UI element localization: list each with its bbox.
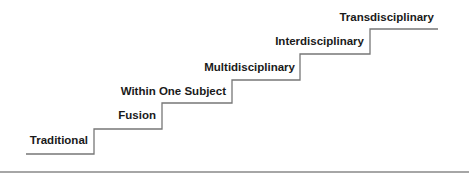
step-label-multidisciplinary: Multidisciplinary xyxy=(204,61,295,73)
step-label-within-one-subject: Within One Subject xyxy=(121,85,226,97)
step-label-fusion: Fusion xyxy=(118,109,156,121)
staircase-diagram: Traditional Fusion Within One Subject Mu… xyxy=(0,0,469,174)
step-label-traditional: Traditional xyxy=(30,134,88,146)
step-label-transdisciplinary: Transdisciplinary xyxy=(339,11,434,23)
staircase-lines xyxy=(0,0,469,174)
step-label-interdisciplinary: Interdisciplinary xyxy=(275,35,364,47)
